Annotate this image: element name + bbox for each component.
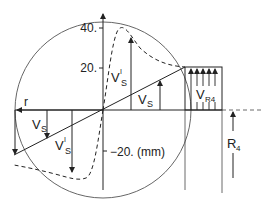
vs-left-label: V S — [32, 117, 47, 134]
tick-label-20: 20. — [80, 61, 97, 75]
tick-label-minus20: −20. (mm) — [110, 145, 165, 159]
svg-text:V: V — [32, 117, 41, 132]
svg-text:S: S — [121, 78, 127, 88]
svg-text:R4: R4 — [205, 95, 216, 104]
svg-text:V: V — [196, 87, 205, 102]
vps-upper-label: V I S — [111, 68, 127, 88]
svg-text:V: V — [138, 92, 147, 107]
svg-text:S: S — [147, 99, 153, 109]
svg-text:I: I — [120, 68, 122, 75]
r-label: r — [24, 95, 28, 109]
tick-label-40: 40. — [80, 21, 97, 35]
svg-text:V: V — [111, 70, 120, 85]
svg-text:S: S — [41, 124, 47, 134]
vps-lower-label: V I S — [55, 136, 71, 156]
svg-text:I: I — [64, 136, 66, 143]
svg-text:V: V — [55, 138, 64, 153]
svg-text:R: R — [227, 136, 236, 151]
svg-text:4: 4 — [236, 144, 241, 153]
vs-right-label: V S — [138, 92, 153, 109]
svg-text:S: S — [65, 146, 71, 156]
velocity-profile-diagram: 40. 20. −20. (mm) r V I S V S V S V — [0, 0, 267, 206]
linear-velocity-line — [14, 67, 185, 155]
